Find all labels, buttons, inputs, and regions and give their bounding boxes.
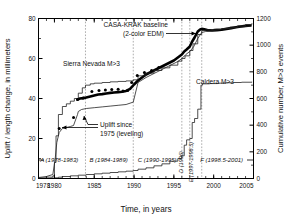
- data-point: [98, 89, 101, 92]
- annotation-sierra-nevada: Sierra Nevada M>3: [63, 60, 120, 67]
- period-label-F: F (1998.5-2001): [200, 157, 243, 163]
- x-axis-title: Time, in years: [120, 205, 171, 214]
- y-left-tick-label: 40: [28, 95, 36, 102]
- period-label-C: C (1990-1995): [138, 157, 177, 163]
- uplift-seismicity-chart: 1978198019851990199520002005020406080020…: [0, 0, 291, 219]
- annotation-casa-krak: CASA-KRAK baseline: [103, 21, 168, 28]
- y-left-tick-label: 20: [28, 135, 36, 142]
- period-label-E: E (1997-1998.5): [188, 142, 194, 183]
- y-right-tick-label: 1200: [257, 15, 272, 22]
- y-right-tick-label: 0: [257, 175, 261, 182]
- data-point: [110, 88, 113, 91]
- data-point: [104, 88, 107, 91]
- x-tick-label: 1990: [127, 182, 142, 189]
- period-label-text-C: C (1990-1995): [138, 157, 177, 163]
- data-point: [121, 89, 124, 92]
- x-tick-label: 1995: [167, 182, 182, 189]
- y-axis-title-right: Cumulative number, M>3 events: [276, 44, 285, 153]
- y-right-tick-label: 200: [257, 148, 268, 155]
- data-point: [136, 74, 139, 77]
- data-point: [143, 71, 146, 74]
- data-point: [126, 89, 129, 92]
- annotation-uplift-sub: 1975 (leveling): [100, 130, 143, 138]
- y-left-tick-label: 0: [32, 175, 36, 182]
- annotation-casa-krak-sub: (2-color EDM): [123, 30, 164, 38]
- y-right-tick-label: 400: [257, 121, 268, 128]
- y-right-tick-label: 800: [257, 68, 268, 75]
- period-label-text-A: A (1978-1983): [39, 157, 78, 163]
- period-label-text-E: E (1997-1998.5): [188, 142, 194, 183]
- data-point: [58, 127, 61, 130]
- figure-container: 1978198019851990199520002005020406080020…: [0, 0, 291, 219]
- period-label-text-B: B (1984-1989): [89, 157, 127, 163]
- data-point: [76, 98, 79, 101]
- annotation-uplift: Uplift since: [100, 121, 133, 129]
- annotation-caldera: Caldera M>3: [196, 78, 234, 85]
- period-label-text-D: D (1996): [178, 151, 184, 173]
- period-label-D: D (1996): [178, 151, 184, 173]
- period-label-text-F: F (1998.5-2001): [200, 157, 243, 163]
- period-label-A: A (1978-1983): [39, 157, 78, 163]
- y-left-tick-label: 80: [28, 15, 36, 22]
- data-point: [157, 66, 160, 69]
- data-point: [90, 90, 93, 93]
- x-tick-label: 2005: [239, 182, 254, 189]
- x-tick-label: 2000: [207, 182, 222, 189]
- y-axis-title-left: Uplift / length change, in millimeters: [3, 38, 12, 158]
- data-point: [117, 88, 120, 91]
- data-point: [72, 116, 75, 119]
- data-point: [82, 96, 85, 99]
- x-tick-label: 1985: [87, 182, 102, 189]
- x-tick-label: 1980: [47, 182, 62, 189]
- y-right-tick-label: 600: [257, 95, 268, 102]
- data-point: [130, 81, 133, 84]
- y-left-tick-label: 60: [28, 55, 36, 62]
- period-label-B: B (1984-1989): [89, 157, 127, 163]
- y-right-tick-label: 1000: [257, 41, 272, 48]
- data-point: [150, 69, 153, 72]
